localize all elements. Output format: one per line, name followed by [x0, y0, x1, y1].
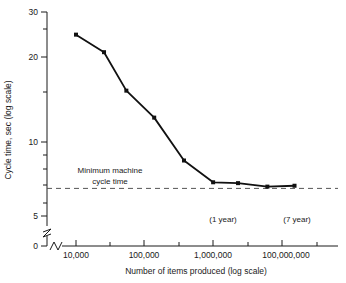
- annotation-7-year: (7 year): [283, 215, 311, 224]
- reference-label-line1: Minimum machine: [78, 166, 143, 175]
- y-tick-label-0: 0: [33, 241, 38, 251]
- reference-label-line2: cycle time: [92, 177, 128, 186]
- chart-canvas: Cycle time, sec (log scale) 30 20 10 5 0: [0, 0, 346, 283]
- y-tick-label-5: 5: [33, 211, 38, 221]
- y-tick-label-10: 10: [29, 137, 39, 147]
- data-point: [152, 116, 156, 120]
- cycle-time-chart: Cycle time, sec (log scale) 30 20 10 5 0: [0, 0, 346, 283]
- x-axis-title: Number of items produced (log scale): [125, 266, 267, 276]
- y-axis-title: Cycle time, sec (log scale): [3, 80, 13, 179]
- data-point: [182, 159, 186, 163]
- data-point: [293, 184, 297, 188]
- data-point: [265, 185, 269, 189]
- data-point: [236, 181, 240, 185]
- data-point: [102, 50, 106, 54]
- annotation-1-year: (1 year): [209, 215, 237, 224]
- y-tick-label-30: 30: [29, 7, 39, 17]
- chart-background: [0, 0, 346, 283]
- data-point: [211, 180, 215, 184]
- data-point: [124, 89, 128, 93]
- x-tick-label-10k: 10,000: [63, 250, 89, 260]
- data-point: [74, 33, 78, 37]
- x-tick-label-1m: 1,000,000: [194, 250, 232, 260]
- x-tick-label-100m: 100,000,000: [262, 250, 310, 260]
- x-tick-label-100k: 100,000: [129, 250, 160, 260]
- y-tick-label-20: 20: [29, 52, 39, 62]
